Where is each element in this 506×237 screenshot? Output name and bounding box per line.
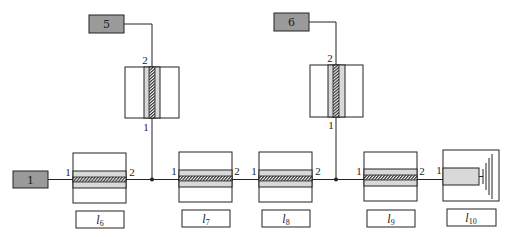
diagram-canvas: 1 5 6 2 1 2 1 1 2 l6 1 2 (0, 0, 506, 237)
junction-dot-1 (150, 178, 154, 182)
source-label: 6 (288, 16, 295, 29)
port-label-bottom: 1 (328, 119, 334, 131)
label-sub: 6 (100, 219, 104, 228)
port-out-label: 2 (315, 165, 321, 177)
line-l8[interactable]: 1 2 l8 (251, 152, 321, 227)
port-label-top: 2 (142, 54, 148, 66)
port-in-label: 1 (251, 165, 257, 177)
label-sub: 8 (286, 218, 290, 227)
port-out-label: 2 (129, 166, 135, 178)
port-in-label: 1 (436, 164, 442, 176)
port-out-label: 2 (419, 165, 425, 177)
port-label-top: 2 (327, 52, 333, 64)
junction-dot-2 (334, 178, 338, 182)
source-label: 5 (103, 18, 110, 31)
source-6[interactable]: 6 (274, 13, 309, 31)
line-conductor (73, 177, 126, 182)
line-l7[interactable]: 1 2 l7 (171, 152, 240, 227)
source-5[interactable]: 5 (89, 15, 124, 33)
port-out-label: 2 (234, 165, 240, 177)
label-sub: 9 (391, 218, 395, 227)
label-sub: 7 (206, 218, 210, 227)
port-in-label: 1 (65, 166, 71, 178)
terminal-l10[interactable]: 1 l10 (436, 150, 499, 226)
source-1[interactable]: 1 (13, 171, 48, 188)
terminal-dielectric (443, 168, 479, 185)
stub-conductor (149, 67, 155, 118)
line-l6[interactable]: 1 2 l6 (65, 153, 135, 228)
stub-conductor (333, 65, 339, 117)
line-conductor (259, 176, 312, 181)
line-l9[interactable]: 1 2 l9 (356, 152, 425, 227)
port-label-bottom: 1 (143, 121, 149, 133)
wire-src5-stub (124, 24, 152, 67)
source-label: 1 (27, 174, 34, 187)
label-sub: 10 (469, 217, 477, 226)
line-conductor (364, 175, 417, 180)
port-in-label: 1 (171, 165, 177, 177)
port-in-label: 1 (356, 165, 362, 177)
line-conductor (179, 176, 232, 181)
